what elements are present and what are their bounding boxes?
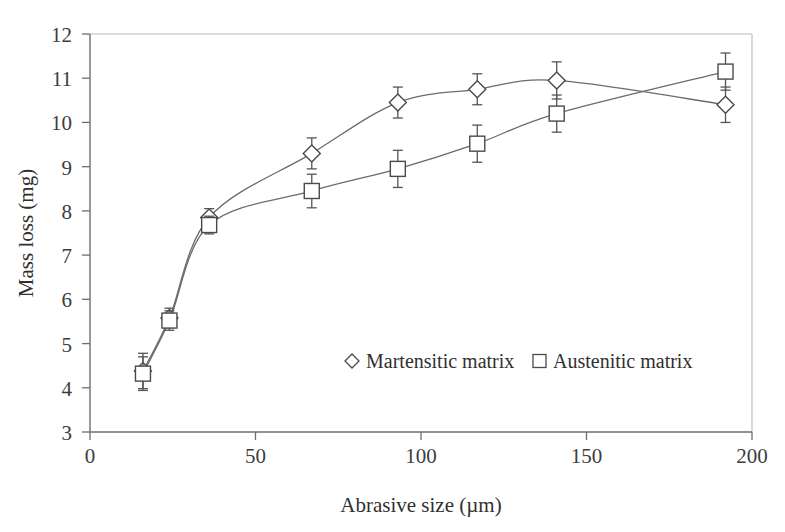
figure-page: 3 4 5 6 7 8 9 10 11 12 0 50 100 150 200 <box>0 0 785 532</box>
data-point-open-diamond <box>303 145 320 162</box>
y-tick-label-12: 12 <box>51 23 72 47</box>
data-point-open-square <box>390 161 405 176</box>
legend-label-austenitic: Austenitic matrix <box>553 350 692 372</box>
data-point-open-square <box>304 183 319 198</box>
y-tick-label-10: 10 <box>51 111 72 135</box>
legend-open-square-icon <box>533 355 546 368</box>
data-point-open-square <box>470 136 485 151</box>
x-axis-title: Abrasive size (µm) <box>340 493 501 517</box>
x-tick-label-200: 200 <box>736 444 768 468</box>
legend-label-martensitic: Martensitic matrix <box>366 350 514 372</box>
x-tick-label-150: 150 <box>571 444 603 468</box>
series-layer <box>134 53 734 390</box>
legend-open-diamond-icon <box>345 354 359 368</box>
data-point-open-diamond <box>717 96 734 113</box>
data-point-open-square <box>718 64 733 79</box>
series-martensitic-matrix <box>134 62 734 389</box>
y-axis-ticks <box>82 34 90 432</box>
y-tick-label-5: 5 <box>62 333 73 357</box>
chart-legend: Martensitic matrix Austenitic matrix <box>345 350 692 372</box>
y-axis-title: Mass loss (mg) <box>14 169 38 297</box>
y-tick-label-3: 3 <box>62 421 73 445</box>
y-tick-label-9: 9 <box>62 156 73 180</box>
data-point-open-square <box>162 313 177 328</box>
x-axis-tick-labels: 0 50 100 150 200 <box>85 444 768 468</box>
y-tick-label-7: 7 <box>62 244 73 268</box>
y-tick-label-4: 4 <box>62 377 73 401</box>
mass-loss-vs-abrasive-size-chart: 3 4 5 6 7 8 9 10 11 12 0 50 100 150 200 <box>0 0 785 532</box>
data-point-open-square <box>135 366 150 381</box>
series-curve <box>143 80 726 371</box>
x-tick-label-100: 100 <box>405 444 437 468</box>
series-austenitic-matrix <box>135 53 733 390</box>
x-tick-label-50: 50 <box>245 444 266 468</box>
data-point-open-square <box>549 106 564 121</box>
data-point-open-diamond <box>389 94 406 111</box>
y-tick-label-6: 6 <box>62 288 73 312</box>
y-tick-label-11: 11 <box>52 67 72 91</box>
x-tick-label-0: 0 <box>85 444 96 468</box>
y-axis-tick-labels: 3 4 5 6 7 8 9 10 11 12 <box>51 23 73 445</box>
data-point-open-diamond <box>548 72 565 89</box>
series-curve <box>143 72 726 374</box>
y-tick-label-8: 8 <box>62 200 73 224</box>
data-point-open-square <box>202 218 217 233</box>
x-axis-ticks <box>90 432 752 440</box>
data-point-open-diamond <box>469 81 486 98</box>
